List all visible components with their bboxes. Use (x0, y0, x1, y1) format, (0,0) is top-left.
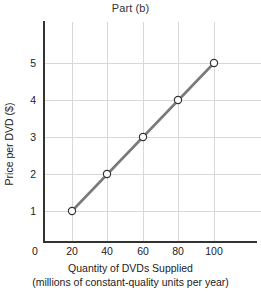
x-tick-label-60: 60 (137, 245, 149, 257)
x-tick-label-100: 100 (205, 245, 223, 257)
x-axis-title-line2: (millions of constant-quality units per … (0, 275, 261, 289)
chart-figure: Part (b) 5 4 3 2 1 0 20 40 60 80 100 (0, 0, 261, 296)
x-axis-title: Quantity of DVDs Supplied (millions of c… (0, 261, 261, 289)
x-tick-label-40: 40 (101, 245, 113, 257)
x-axis-tick-labels: 0 20 40 60 80 100 (0, 0, 261, 296)
x-tick-label-80: 80 (172, 245, 184, 257)
x-axis-title-line1: Quantity of DVDs Supplied (0, 261, 261, 275)
x-tick-label-20: 20 (66, 245, 78, 257)
y-axis-title: Price per DVD ($) (3, 79, 15, 209)
x-tick-label-0: 0 (32, 245, 38, 257)
